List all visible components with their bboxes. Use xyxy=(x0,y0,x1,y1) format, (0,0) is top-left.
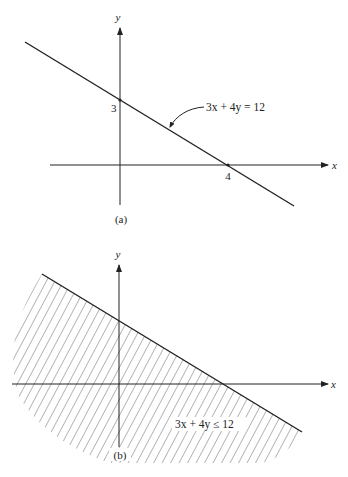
figure-b: y x 3x + 4y ≤ 12 (b) xyxy=(0,248,348,477)
x-intercept-label: 4 xyxy=(225,170,231,182)
figure-a: y x 3 4 3x + 4y = 12 (a) xyxy=(25,11,337,226)
leader-arrow xyxy=(170,107,204,127)
y-axis-label: y xyxy=(115,248,121,260)
shaded-region xyxy=(0,260,348,477)
figure-canvas: y x 3 4 3x + 4y = 12 (a) y x 3x + 4y ≤ 1… xyxy=(0,0,348,477)
caption-a: (a) xyxy=(115,213,128,226)
y-axis-label: y xyxy=(115,11,121,23)
inequality-label: 3x + 4y ≤ 12 xyxy=(175,418,234,431)
x-axis-label: x xyxy=(330,378,336,390)
y-intercept-point xyxy=(118,98,121,101)
equation-line xyxy=(25,42,294,206)
y-intercept-label: 3 xyxy=(111,102,117,114)
x-axis-label: x xyxy=(331,159,337,171)
x-intercept-point xyxy=(226,163,229,166)
caption-b: (b) xyxy=(114,449,127,462)
equation-label: 3x + 4y = 12 xyxy=(206,101,265,114)
